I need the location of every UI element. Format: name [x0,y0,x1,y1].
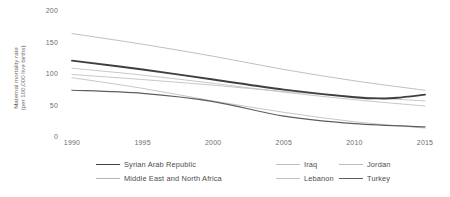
legend-label: Jordan [367,158,391,171]
legend-label: Syrian Arab Republic [124,158,196,171]
legend-line-swatch [276,164,300,165]
legend-item-jordan[interactable]: Jordan [339,158,414,171]
legend-row: Middle East and North AfricaLebanonTurke… [96,172,444,185]
legend-line-swatch [339,178,363,179]
series-line-turkey [72,90,425,127]
series-line-middle-east-and-north-africa [72,34,425,91]
series-line-iraq [72,68,425,106]
legend-label: Iraq [304,158,317,171]
legend-label: Turkey [367,172,390,185]
legend-line-swatch [276,178,300,179]
legend-label: Lebanon [304,172,334,185]
legend-item-turkey[interactable]: Turkey [339,172,414,185]
legend-line-swatch [339,164,363,165]
legend-label: Middle East and North Africa [124,172,222,185]
legend-item-iraq[interactable]: Iraq [276,158,346,171]
legend-item-middle-east-and-north-africa[interactable]: Middle East and North Africa [96,172,266,185]
legend-line-swatch [96,178,120,179]
legend-line-swatch [96,164,120,165]
legend-row: Syrian Arab RepublicIraqJordan [96,158,444,171]
chart-figure: Maternal mortality rate (per 100,000 liv… [0,0,450,197]
legend-item-syrian-arab-republic[interactable]: Syrian Arab Republic [96,158,226,171]
series-lines [72,34,425,129]
chart-legend: Syrian Arab RepublicIraqJordanMiddle Eas… [96,158,444,190]
